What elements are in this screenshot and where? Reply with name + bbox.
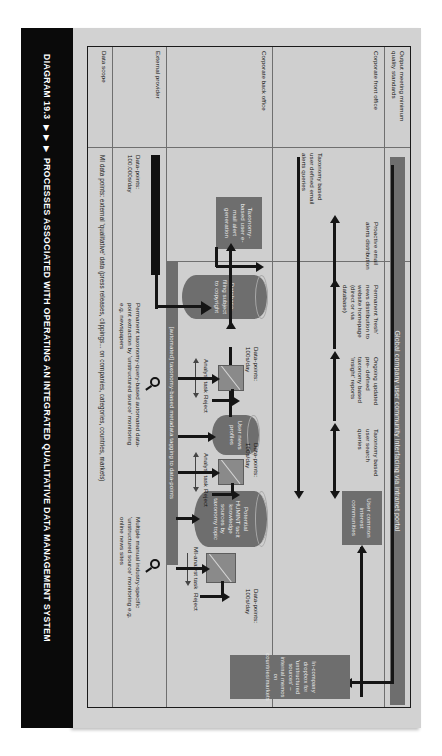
arrowhead-feed-task-1 xyxy=(212,374,220,384)
arrowhead-feed-task-3 xyxy=(202,564,210,574)
lane-label-divider xyxy=(88,147,410,148)
node-user-communities: User common interest communities xyxy=(342,491,382,545)
connector-feed-task-3 xyxy=(176,567,204,570)
label-manual-monitoring: Multiple manual industry-specific 'unstr… xyxy=(119,517,142,637)
caption-number: DIAGRAM 19.3 xyxy=(42,28,52,120)
connector-email-queries xyxy=(297,157,300,493)
arrowhead-search-queries-left xyxy=(330,423,340,431)
flow-label-search-queries: Taxonomy based user search queries xyxy=(357,429,380,479)
arrowhead-alertgen-to-database xyxy=(256,262,264,272)
connector-feed-task-1 xyxy=(178,377,214,380)
label-reject-3: Reject xyxy=(192,593,200,621)
arrowhead-search-queries-right xyxy=(330,491,340,499)
indicator-analyst-1-right xyxy=(193,393,199,398)
magnifier-icon-manual xyxy=(144,559,160,572)
caption-bar: DIAGRAM 19.3 ▶ ▶ ▶ PROCESSES ASSOCIATED … xyxy=(21,28,73,728)
indicator-mi-analyst-right xyxy=(185,581,191,586)
label-automated-extraction: Permanent taxonomy-query-based automated… xyxy=(119,303,142,451)
connector-reject-2-h xyxy=(231,483,234,496)
diagram-sheet: Output meeting minimum quality standards… xyxy=(73,28,421,728)
caption-arrows-icon: ▶ ▶ ▶ xyxy=(43,120,52,158)
label-data-points-3: Data-points: 100s/day xyxy=(244,589,260,625)
flow-label-email-queries: Taxonomy based user defined email alerts… xyxy=(301,153,324,211)
node-dropbox: In-company dropbox for 'unstructured sou… xyxy=(230,655,350,699)
diagram-page: Output meeting minimum quality standards… xyxy=(21,28,421,728)
indicator-analyst-2-right xyxy=(193,487,199,492)
node-email-alert-generation: Taxonomy-based user e-mail alert generat… xyxy=(216,197,262,249)
lane-label-output-quality: Output meeting minimum quality standards xyxy=(390,51,406,141)
connector-search-queries xyxy=(333,431,336,493)
label-data-scope-text: MI data points: external 'qualitative' d… xyxy=(98,155,106,695)
arrowhead-email-queries xyxy=(294,491,304,499)
connector-portal-to-dropbox-v xyxy=(350,681,394,684)
connector-insight-reports xyxy=(333,359,336,421)
diagram-frame: Output meeting minimum quality standards… xyxy=(87,46,411,708)
connector-alertgen-to-database xyxy=(216,265,258,268)
connector-reject-1-h xyxy=(231,389,234,402)
label-reject-2: Reject xyxy=(202,489,210,517)
label-reject-1: Reject xyxy=(202,395,210,423)
connector-feed-task-2 xyxy=(178,471,214,474)
connector-news-distribution xyxy=(333,287,336,349)
flow-label-insight-reports: Ongoing updated pre- defined taxonomy ba… xyxy=(349,357,380,415)
connector-external-feed-h xyxy=(155,275,158,309)
arrowhead-external-feed xyxy=(201,301,212,315)
task-analyst-1 xyxy=(218,365,244,391)
lane-label-external: External provider xyxy=(154,51,162,141)
label-data-points-100k: Data-points: 100.000s/day xyxy=(126,155,142,213)
indicator-analyst-1-left xyxy=(193,358,199,363)
node-database: Database- filing subject to copyright xyxy=(182,275,268,319)
magnifier-icon-automated xyxy=(144,377,160,390)
connector-db-to-alertgen xyxy=(229,249,232,329)
arrowhead-user-communities xyxy=(357,545,367,553)
arrowhead-email-alerts xyxy=(330,215,340,223)
arrowhead-insight-reports xyxy=(330,351,340,359)
lane-label-data-scope: Data scope xyxy=(100,51,108,141)
arrowhead-feed-task-2 xyxy=(212,468,220,478)
caption-title: PROCESSES ASSOCIATED WITH OPERATING AN I… xyxy=(42,158,52,642)
connector-db-to-profiles xyxy=(178,435,210,438)
connector-alertgen-to-database-h xyxy=(215,247,218,267)
connector-external-feed xyxy=(156,305,204,308)
arrowhead-db-to-alertgen xyxy=(226,243,236,251)
indicator-analyst-2-left xyxy=(193,452,199,457)
lane-label-front-office: Corporate front office xyxy=(372,51,380,141)
label-data-points-2: Data-points: 100s/day xyxy=(244,443,260,479)
external-feeder-bar xyxy=(151,155,160,275)
connector-portal-to-dropbox-h xyxy=(391,165,394,683)
flow-label-email-alerts: Proactive email alerts distribution xyxy=(364,222,380,274)
task-analyst-2 xyxy=(218,459,244,485)
arrowhead-tasks-to-database xyxy=(226,321,236,329)
connector-reject-3-h xyxy=(221,581,224,598)
task-analyst-3 xyxy=(206,553,236,583)
connector-user-communities xyxy=(360,547,363,697)
label-data-points-1: Data-points: 100s/day xyxy=(244,347,260,383)
arrowhead-news-distribution xyxy=(330,279,340,287)
connector-email-alerts xyxy=(333,223,336,283)
lane-label-back-office: Corporate back office xyxy=(260,51,268,141)
flow-label-news-distribution: Permanent 'fresh' news distribution to w… xyxy=(341,285,380,343)
arrowhead-db-to-profiles xyxy=(208,432,216,442)
arrowhead-profiles-to-humint xyxy=(192,514,200,524)
